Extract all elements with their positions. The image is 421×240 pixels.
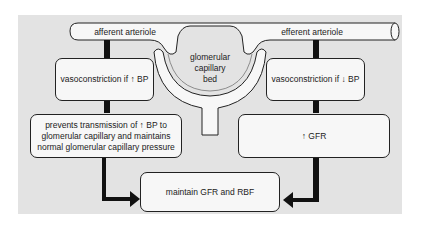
efferent-end-cap	[391, 23, 399, 40]
afferent-arteriole-label: afferent arteriole	[80, 27, 170, 38]
right-arrow	[283, 157, 319, 208]
right-vasoconstriction-box: vasoconstriction if ↓ BP	[266, 58, 365, 101]
prevents-transmission-box: prevents transmission of ↑ BP to glomeru…	[30, 114, 182, 158]
increase-gfr-box: ↑ GFR	[238, 114, 390, 158]
glomerular-bed-label: glomerular capillary bed	[178, 52, 242, 85]
efferent-arteriole-label: efferent arteriole	[262, 27, 362, 38]
outcome-box: maintain GFR and RBF	[140, 172, 280, 212]
left-arrow	[102, 156, 140, 207]
left-vasoconstriction-box: vasoconstriction if ↑ BP	[55, 58, 154, 101]
